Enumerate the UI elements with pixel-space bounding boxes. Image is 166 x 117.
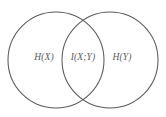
venn-label-entropy-y: H(Y) [113, 53, 132, 63]
venn-label-entropy-x: H(X) [34, 53, 53, 63]
venn-diagram-figure: H(X) I(X;Y) H(Y) [0, 0, 166, 117]
venn-label-mutual-information: I(X;Y) [71, 53, 95, 63]
